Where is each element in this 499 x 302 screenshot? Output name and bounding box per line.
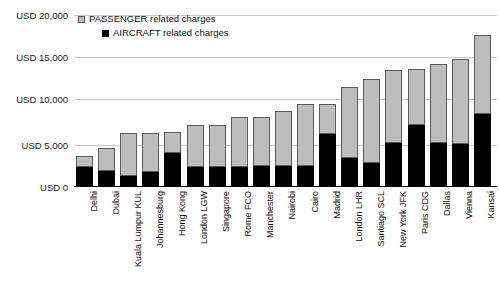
- x-label-paris-cdg: Paris CDG: [420, 191, 430, 234]
- bar-segment-passenger: [474, 35, 491, 114]
- bar-segment-passenger: [275, 111, 292, 166]
- plot-area: [74, 15, 497, 187]
- x-label-nairobi: Nairobi: [287, 191, 297, 220]
- bar-segment-aircraft: [209, 167, 226, 187]
- legend-swatch-passenger-icon: [78, 16, 85, 23]
- bar-segment-aircraft: [430, 143, 447, 187]
- bar-segment-aircraft: [164, 153, 181, 187]
- y-tick-10000: USD 10,000: [16, 94, 68, 105]
- y-tick-0: USD 0: [40, 182, 68, 193]
- bar-segment-aircraft: [385, 143, 402, 187]
- legend-item-aircraft: AIRCRAFT related charges: [78, 26, 228, 40]
- bar-segment-aircraft: [275, 166, 292, 187]
- bar-segment-passenger: [408, 69, 425, 125]
- bar-segment-aircraft: [363, 163, 380, 187]
- bar-segment-aircraft: [98, 171, 115, 187]
- bar-segment-aircraft: [231, 167, 248, 187]
- bar-segment-passenger: [452, 59, 469, 144]
- x-label-london-lhr: London LHR: [354, 191, 364, 242]
- chart-legend: PASSENGER related charges AIRCRAFT relat…: [78, 12, 228, 40]
- y-axis-labels: USD 20,000 USD 15,000 USD 10,000 USD 5,0…: [0, 0, 72, 302]
- bar-segment-aircraft: [452, 144, 469, 187]
- bar-segment-passenger: [297, 104, 314, 167]
- bar-segment-passenger: [363, 79, 380, 163]
- bar-segment-aircraft: [253, 166, 270, 187]
- x-label-santiago-scl: Santiago SCL: [376, 191, 386, 247]
- bar-segment-passenger: [76, 156, 93, 167]
- bar-segment-passenger: [209, 125, 226, 167]
- legend-label-passenger: PASSENGER related charges: [89, 14, 216, 24]
- x-label-vienna: Vienna: [464, 191, 474, 219]
- x-label-new-york-jfk: New York JFK: [398, 191, 408, 248]
- x-label-rome-fco: Rome FCO: [243, 191, 253, 237]
- bar-segment-aircraft: [142, 172, 159, 187]
- airport-charges-stacked-bar-chart: USD 20,000 USD 15,000 USD 10,000 USD 5,0…: [0, 0, 499, 302]
- bar-segment-aircraft: [319, 134, 336, 187]
- bar-segment-aircraft: [341, 158, 358, 187]
- y-tick-20000: USD 20,000: [16, 10, 68, 21]
- x-axis-labels: DelhiDubaiKuala Lumpur KULJohannesburgHo…: [74, 189, 497, 301]
- bar-segment-aircraft: [474, 114, 491, 187]
- bar-segment-passenger: [142, 133, 159, 173]
- bar-segment-passenger: [430, 64, 447, 143]
- bar-group: [74, 15, 497, 187]
- bar-segment-passenger: [187, 125, 204, 167]
- bar-segment-passenger: [253, 117, 270, 167]
- bar-segment-passenger: [164, 132, 181, 154]
- bar-segment-aircraft: [76, 167, 93, 187]
- bar-segment-passenger: [385, 70, 402, 143]
- x-label-london-lgw: London LGW: [199, 191, 209, 244]
- x-label-cairo: Cairo: [310, 191, 320, 213]
- x-label-kuala-lumpur-kul: Kuala Lumpur KUL: [133, 191, 143, 267]
- legend-item-passenger: PASSENGER related charges: [78, 12, 228, 26]
- x-label-manchester: Manchester: [265, 191, 275, 238]
- x-label-hong-kong: Hong Kong: [177, 191, 187, 236]
- x-label-madrid: Madrid: [332, 191, 342, 219]
- legend-swatch-aircraft-icon: [102, 30, 109, 37]
- x-label-dallas: Dallas: [442, 191, 452, 216]
- x-label-johannesburg: Johannesburg: [155, 191, 165, 248]
- bar-segment-passenger: [319, 104, 336, 134]
- x-label-dubai: Dubai: [111, 191, 121, 215]
- x-label-delhi: Delhi: [89, 191, 99, 212]
- legend-label-aircraft: AIRCRAFT related charges: [113, 28, 228, 38]
- bar-segment-passenger: [98, 148, 115, 170]
- bar-segment-passenger: [120, 133, 137, 176]
- bar-segment-aircraft: [120, 176, 137, 187]
- x-label-singapore: Singapore: [221, 191, 231, 232]
- bar-segment-aircraft: [408, 125, 425, 187]
- bar-segment-passenger: [231, 117, 248, 168]
- y-tick-15000: USD 15,000: [16, 52, 68, 63]
- bar-segment-aircraft: [297, 166, 314, 187]
- x-label-kansai: Kansai: [486, 191, 496, 219]
- bar-segment-aircraft: [187, 167, 204, 187]
- y-tick-5000: USD 5,000: [22, 140, 68, 151]
- bar-segment-passenger: [341, 87, 358, 158]
